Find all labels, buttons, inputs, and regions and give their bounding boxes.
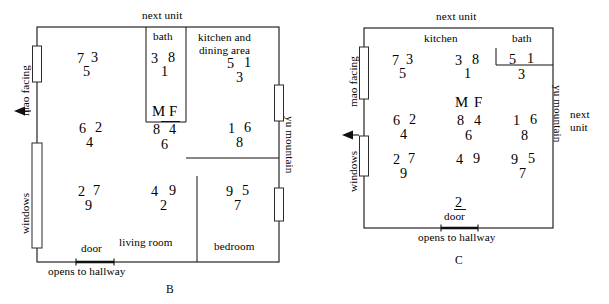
c-right-outer-line2: unit	[570, 121, 590, 134]
c-cell-sw-bottom: 9	[400, 166, 407, 180]
c-mf-marker-f: F	[474, 95, 482, 110]
c-cell-s-top-left: 4	[456, 152, 463, 166]
b-window-upper-right	[275, 85, 284, 121]
b-cell-se-top-right: 5	[242, 183, 249, 197]
c-cell-center-top-left: 8	[457, 113, 464, 127]
c-door-label: door	[444, 211, 465, 223]
c-caption: C	[455, 254, 463, 266]
c-mf-marker-m: M	[455, 95, 468, 110]
figure-page: next unit mao facing windows yu mountain…	[0, 0, 609, 304]
c-cell-w-bottom: 4	[400, 127, 407, 141]
c-mao-facing-arrow	[342, 131, 359, 140]
b-cell-center-top-right: 4	[169, 122, 176, 136]
c-cell-s-bottom: 2	[455, 195, 462, 209]
c-cell-w-top-right: 2	[409, 112, 416, 126]
c-cell-nw-bottom: 5	[399, 66, 406, 80]
b-bottom-label: opens to hallway	[48, 266, 125, 278]
c-left-upper-label: mao facing	[348, 56, 360, 107]
c-cell-center-top-right: 4	[474, 113, 481, 127]
b-cell-sw-top-right: 7	[93, 183, 100, 197]
c-cell-bath-bottom: 3	[518, 67, 525, 81]
c-cell-e-top-right: 6	[530, 112, 537, 126]
b-window-lower-right	[275, 188, 284, 221]
c-cell-n-top-right: 8	[472, 52, 479, 66]
c-cell-n-top-left: 3	[455, 53, 462, 67]
c-room-label-bath: bath	[512, 33, 532, 45]
c-cell-se-bottom: 7	[519, 166, 526, 180]
b-cell-se-bottom: 7	[234, 198, 241, 212]
b-door-label: door	[81, 243, 102, 255]
b-cell-sw-bottom: 9	[85, 198, 92, 212]
b-cell-bath-top-right: 8	[168, 50, 175, 64]
b-cell-w-bottom: 4	[86, 135, 93, 149]
b-window-lower-left	[32, 143, 42, 248]
c-cell-bath-top-right: 1	[527, 51, 534, 65]
c-right-outer-line1: next	[570, 108, 590, 121]
c-cell-e-top-left: 1	[513, 113, 520, 127]
b-room-label-living-room: living room	[119, 237, 173, 249]
c-window-lower-left	[360, 136, 369, 176]
b-cell-nw-bottom: 5	[83, 64, 90, 78]
b-cell-se-top-left: 9	[226, 184, 233, 198]
b-room-label-kitchen-dining: kitchen and dining area	[198, 31, 251, 56]
b-kitchen-label-line1: kitchen and	[198, 31, 251, 44]
c-bottom-label: opens to hallway	[418, 232, 495, 244]
b-cell-s-top-left: 4	[151, 184, 158, 198]
c-room-label-kitchen: kitchen	[424, 33, 458, 45]
b-cell-w-top-right: 2	[95, 120, 102, 134]
b-cell-e-bottom: 8	[236, 135, 243, 149]
b-cell-center-bottom: 6	[161, 137, 168, 151]
c-cell-bath-top-left: 5	[509, 52, 516, 66]
b-right-label: yu mountain	[283, 116, 295, 173]
c-cell-sw-top-right: 7	[408, 151, 415, 165]
c-right-outer-label: next unit	[570, 108, 590, 133]
b-room-label-bedroom: bedroom	[214, 241, 254, 253]
b-cell-s-top-right: 9	[169, 183, 176, 197]
c-left-lower-label: windows	[348, 151, 360, 192]
c-cell-center-bottom: 6	[465, 128, 472, 142]
b-cell-center-top-left: 8	[153, 122, 160, 136]
b-cell-bath-bottom: 1	[161, 64, 168, 78]
c-window-upper-left	[360, 47, 369, 99]
c-top-label: next unit	[436, 11, 476, 23]
b-cell-s-bottom: 2	[160, 198, 167, 212]
c-cell-n-bottom: 1	[464, 66, 471, 80]
b-mf-marker-f: F	[169, 104, 177, 119]
b-cell-kitchen-top-right: 1	[244, 55, 251, 69]
c-cell-e-bottom: 8	[521, 128, 528, 142]
b-left-upper-label: mao facing	[20, 65, 32, 116]
b-cell-kitchen-top-left: 5	[227, 56, 234, 70]
c-cell-se-top-right: 5	[528, 151, 535, 165]
c-right-label: yu mountain	[551, 85, 563, 142]
b-cell-e-top-right: 6	[244, 120, 251, 134]
b-room-label-bath: bath	[153, 31, 173, 43]
b-top-label: next unit	[142, 10, 182, 22]
b-cell-kitchen-bottom: 3	[236, 70, 243, 84]
b-left-lower-label: windows	[20, 193, 32, 234]
b-mf-marker-m: M	[152, 104, 165, 119]
b-cell-e-top-left: 1	[228, 121, 235, 135]
c-cell-nw-top-right: 3	[406, 52, 413, 66]
b-window-upper-left	[33, 46, 42, 82]
b-caption: B	[166, 283, 174, 295]
c-cell-s-top-right: 9	[473, 151, 480, 165]
b-cell-bath-top-left: 3	[151, 51, 158, 65]
c-cell-se-top-left: 9	[511, 152, 518, 166]
b-cell-nw-top-right: 3	[91, 50, 98, 64]
